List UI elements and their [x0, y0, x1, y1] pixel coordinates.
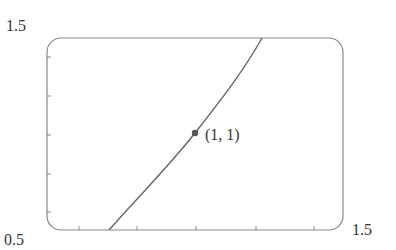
x-max-label: 1.5 [352, 222, 372, 238]
y-min-label: 0.5 [4, 232, 24, 248]
point-marker [192, 130, 198, 136]
y-max-label: 1.5 [6, 18, 26, 34]
point-annotation: (1, 1) [205, 127, 240, 143]
chart-canvas [0, 0, 396, 250]
